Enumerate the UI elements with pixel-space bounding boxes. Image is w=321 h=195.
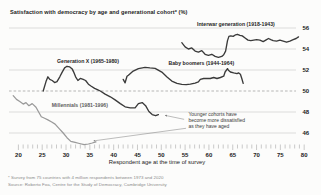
- x-tick-label: 75: [277, 152, 284, 158]
- annotation-arrow-2: [94, 128, 186, 141]
- x-axis-label: Respondent age at the time of survey: [0, 159, 314, 165]
- footnote-survey: * Survey from 75 countries with 4 millio…: [8, 175, 164, 180]
- x-tick-label: 35: [87, 152, 94, 158]
- series-label-generation-x: Generation X (1965-1980): [57, 58, 119, 64]
- x-tick-label: 70: [253, 152, 260, 158]
- x-tick-label: 40: [110, 152, 117, 158]
- footnote-source: Source: Roberto Foa, Centre for the Stud…: [8, 182, 167, 187]
- y-tick-label: 56: [303, 25, 310, 31]
- y-tick-label: 52: [303, 67, 310, 73]
- x-tick-label: 25: [39, 152, 46, 158]
- x-tick-label: 45: [134, 152, 141, 158]
- annotation-arrow-1: [165, 115, 184, 119]
- x-tick-label: 55: [182, 152, 189, 158]
- series-label-baby-boomers: Baby boomers (1944-1964): [168, 60, 234, 66]
- x-tick-label: 20: [15, 152, 22, 158]
- x-tick-label: 30: [63, 152, 70, 158]
- x-tick-label: 80: [301, 152, 308, 158]
- series-label-millennials: Millennials (1981-1996): [52, 102, 108, 108]
- x-tick-label: 50: [158, 152, 165, 158]
- x-tick-label: 65: [229, 152, 236, 158]
- series-line-interwar: [182, 34, 299, 57]
- y-tick-label: 50: [303, 88, 310, 94]
- line-chart: 46485052545620253035404550556065707580Mi…: [0, 0, 321, 195]
- chart-panel: Satisfaction with democracy by age and g…: [0, 0, 321, 195]
- annotation-text: Younger cohorts havebecome more dissatis…: [188, 111, 245, 129]
- series-label-interwar: Interwar generation (1918-1943): [197, 21, 275, 27]
- y-tick-label: 48: [303, 109, 310, 115]
- x-tick-label: 60: [206, 152, 213, 158]
- y-tick-label: 54: [303, 46, 310, 52]
- y-tick-label: 46: [303, 130, 310, 136]
